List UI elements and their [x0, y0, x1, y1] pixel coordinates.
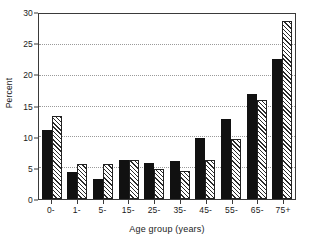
bar-group: [65, 14, 91, 199]
bar-hatched: [129, 160, 139, 199]
bar-group: [244, 14, 270, 199]
bar-group: [218, 14, 244, 199]
bar-solid: [67, 172, 77, 199]
bar-hatched: [154, 169, 164, 199]
bar-group: [193, 14, 219, 199]
bar-solid: [42, 130, 52, 199]
bar-solid: [195, 138, 205, 199]
y-axis-tick-label: 25: [23, 40, 33, 49]
bar-group: [39, 14, 65, 199]
y-axis-tick-label: 30: [23, 9, 33, 18]
bar-hatched: [282, 21, 292, 199]
bar-group: [90, 14, 116, 199]
bar-hatched: [52, 116, 62, 199]
x-axis-tick-mark: [154, 200, 155, 204]
bar-hatched: [103, 164, 113, 199]
y-axis-tick-label: 0: [28, 196, 33, 205]
bar-group: [167, 14, 193, 199]
bar-solid: [93, 179, 103, 199]
bar-hatched: [77, 164, 87, 199]
x-axis-tick-mark: [257, 200, 258, 204]
x-axis-tick-mark: [206, 200, 207, 204]
y-axis-tick-label: 15: [23, 102, 33, 111]
bar-solid: [272, 59, 282, 199]
bar-solid: [119, 160, 129, 199]
x-axis-tick-mark: [103, 200, 104, 204]
bar-hatched: [205, 160, 215, 199]
x-axis: 0-1-5-15-25-35-45-55-65-75+: [38, 200, 296, 222]
bar-solid: [170, 161, 180, 199]
y-axis-tick-label: 20: [23, 71, 33, 80]
bar-solid: [247, 94, 257, 199]
x-axis-tick-mark: [232, 200, 233, 204]
bar-group: [269, 14, 295, 199]
x-axis-tick-mark: [128, 200, 129, 204]
bar-group: [141, 14, 167, 199]
plot-area: [38, 13, 296, 200]
bar-solid: [144, 163, 154, 199]
chart-figure: 051015202530 Percent 0-1-5-15-25-35-45-5…: [0, 0, 313, 250]
bar-solid: [221, 119, 231, 199]
x-axis-tick-mark: [77, 200, 78, 204]
bar-hatched: [231, 139, 241, 199]
y-axis-tick-label: 5: [28, 165, 33, 174]
y-axis-tick-label: 10: [23, 133, 33, 142]
x-axis-tick-mark: [180, 200, 181, 204]
x-axis-tick-mark: [51, 200, 52, 204]
bars-layer: [39, 14, 295, 199]
bar-hatched: [180, 171, 190, 199]
y-axis-title: Percent: [4, 63, 14, 123]
bar-group: [116, 14, 142, 199]
x-axis-title: Age group (years): [38, 224, 296, 234]
bar-hatched: [257, 100, 267, 199]
x-axis-tick-mark: [283, 200, 284, 204]
